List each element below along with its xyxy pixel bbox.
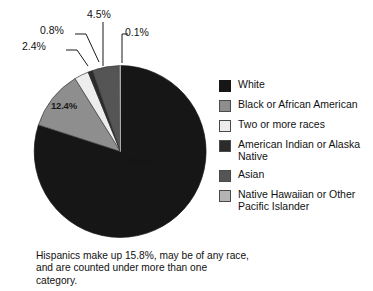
pie-chart [31, 62, 210, 241]
legend-item-two-or-more-races: Two or more races [219, 119, 371, 132]
legend-swatch-black-african-american-icon [219, 100, 231, 112]
legend-label-native-hawaiian-pacific-islander: Native Hawaiian or Other Pacific Islande… [238, 189, 371, 212]
legend-label-asian: Asian [238, 169, 264, 181]
legend-item-american-indian-alaska-native: American Indian or Alaska Native [219, 139, 371, 162]
legend-swatch-native-hawaiian-pacific-islander-icon [219, 190, 231, 202]
legend-swatch-two-or-more-races-icon [219, 120, 231, 132]
legend-swatch-american-indian-alaska-native-icon [219, 140, 231, 152]
legend-label-american-indian-alaska-native: American Indian or Alaska Native [238, 139, 371, 162]
slice-label-black-african-american: 12.4% [51, 100, 77, 111]
chart-caption: Hispanics make up 15.8%, may be of any r… [36, 250, 251, 287]
legend-label-white: White [238, 79, 265, 91]
legend-item-asian: Asian [219, 169, 371, 182]
callout-two-or-more-races: 2.4% [22, 40, 46, 52]
legend-item-white: White [219, 79, 371, 92]
slice-label-white: 79.8% [127, 156, 153, 167]
callout-native-hawaiian-pacific-islander: 0.1% [125, 26, 149, 38]
legend-label-black-african-american: Black or African American [238, 99, 358, 111]
legend-swatch-white-icon [219, 80, 231, 92]
callout-american-indian-alaska-native: 0.8% [40, 24, 64, 36]
legend-label-two-or-more-races: Two or more races [238, 119, 325, 131]
pie-svg [31, 62, 210, 241]
legend-item-native-hawaiian-pacific-islander: Native Hawaiian or Other Pacific Islande… [219, 189, 371, 212]
legend-swatch-asian-icon [219, 170, 231, 182]
legend: White Black or African American Two or m… [219, 79, 371, 219]
chart-root: 2.4% 0.8% 4.5% 0.1% 79.8% 12.4% White Bl… [0, 0, 373, 291]
legend-item-black-african-american: Black or African American [219, 99, 371, 112]
callout-asian: 4.5% [87, 8, 111, 20]
